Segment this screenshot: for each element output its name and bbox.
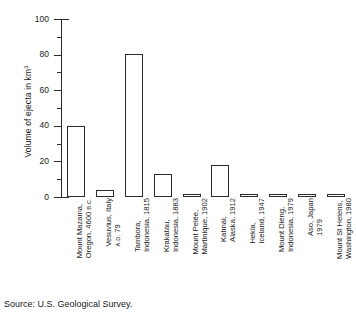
x-axis-label-line1: Mount Mazama, (75, 204, 84, 258)
bar (67, 126, 85, 197)
x-axis-label-line2: Indonesia, 1815 (142, 198, 151, 252)
bar (327, 194, 345, 197)
x-axis-label-era: B.C. (87, 198, 93, 210)
bar (96, 190, 114, 197)
x-axis-label-line2: Indonesia, 1883 (171, 198, 180, 252)
x-axis-label: Aso, Japan1979 (306, 198, 324, 236)
y-axis-title-text: Volume of ejecta in km (23, 69, 33, 158)
x-axis-label-line2: Indonesia, 1979 (286, 198, 295, 252)
bar (154, 174, 172, 197)
x-axis-label: Vesuvius, ItalyA.D. 79 (104, 198, 123, 247)
y-tick-label: 40 (9, 121, 49, 130)
x-axis-label-line1: Mount Pelée, (191, 210, 200, 255)
chart-figure: Volume of ejecta in km3 020406080100 Mou… (0, 0, 356, 318)
x-axis-label-line1: Vesuvius, Italy (104, 198, 113, 247)
plot-area (62, 19, 350, 197)
bar (298, 194, 316, 197)
x-axis-label-line2: Oregon, 4600 B.C. (85, 198, 95, 258)
y-tick-label: 60 (9, 86, 49, 95)
x-axis-label: Krakatau,Indonesia, 1883 (162, 198, 180, 252)
x-axis-label-line2: A.D. 79 (113, 198, 123, 247)
x-axis-category-labels: Mount Mazama,Oregon, 4600 B.C.Vesuvius, … (62, 198, 350, 294)
x-axis-label-line2: Alaska, 1912 (229, 198, 238, 242)
y-tick-major (54, 55, 62, 56)
x-axis-label-line1: Katmai, (219, 216, 228, 242)
y-tick-major (54, 126, 62, 127)
x-axis-label-line2: Washington, 1980 (344, 198, 353, 259)
bar (125, 54, 143, 197)
x-axis-label-line1: Aso, Japan (306, 198, 315, 236)
x-axis-label: Mount Mazama,Oregon, 4600 B.C. (75, 198, 94, 258)
bar (240, 194, 258, 197)
y-tick-major (54, 90, 62, 91)
x-axis-label: Hekla,Iceland, 1947 (248, 198, 266, 244)
x-axis-label-line2: Iceland, 1947 (257, 198, 266, 244)
x-axis-label-era: A.D. (115, 235, 121, 247)
x-axis-label: Mount Dieng,Indonesia, 1979 (277, 198, 295, 252)
source-note: Source: U.S. Geological Survey. (4, 299, 132, 309)
bar (211, 165, 229, 197)
y-tick-label: 0 (9, 193, 49, 202)
y-tick-label: 100 (9, 15, 49, 24)
x-axis-label-line1: Mount Dieng, (277, 207, 286, 252)
x-axis-label: Tambora,Indonesia, 1815 (133, 198, 151, 252)
x-axis-label: Mount St Helens,Washington, 1980 (335, 198, 353, 259)
x-axis-label: Katmai,Alaska, 1912 (219, 198, 237, 242)
x-axis-label-line2: 1979 (315, 198, 324, 236)
x-axis-label-line1: Krakatau, (162, 220, 171, 253)
x-axis-label-line1: Hekla, (248, 222, 257, 244)
y-tick-label: 80 (9, 50, 49, 59)
x-axis-label-line1: Tambora, (133, 220, 142, 252)
y-tick-major (54, 161, 62, 162)
x-axis-label-line1: Mount St Helens, (335, 201, 344, 259)
y-axis-title-exponent: 3 (23, 65, 29, 69)
x-axis-label: Mount Pelée,Martinique, 1902 (191, 198, 209, 255)
bar (269, 194, 287, 197)
x-axis-label-line2: Martinique, 1902 (200, 198, 209, 255)
y-tick-label: 20 (9, 157, 49, 166)
bar (183, 194, 201, 197)
